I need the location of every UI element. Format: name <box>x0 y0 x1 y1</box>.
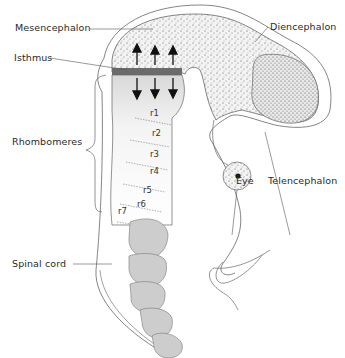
rhombomere-label: r1 <box>150 108 159 118</box>
telencephalon <box>252 54 319 123</box>
label-spinal-cord: Spinal cord <box>12 258 66 269</box>
label-eye: Eye <box>236 175 254 186</box>
label-telencephalon: Telencephalon <box>268 175 337 186</box>
rhombomere-label: r4 <box>150 166 159 176</box>
label-rhombomeres: Rhombomeres <box>12 136 82 147</box>
rhombomere-label: r7 <box>118 206 127 216</box>
rhombomere-label: r5 <box>143 185 152 195</box>
label-isthmus: Isthmus <box>14 52 52 63</box>
rhombomere-label: r3 <box>150 149 159 159</box>
rhombomere-label: r6 <box>137 199 146 209</box>
label-diencephalon: Diencephalon <box>270 21 336 32</box>
rhombomere-label: r2 <box>152 128 161 138</box>
spinal-cord-segments <box>129 219 182 358</box>
label-mesencephalon: Mesencephalon <box>15 22 91 33</box>
rhombomeres-brace <box>86 75 106 212</box>
